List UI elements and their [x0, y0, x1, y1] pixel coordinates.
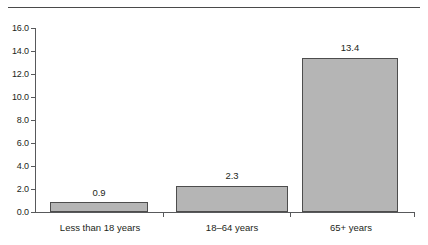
bar-value-label: 13.4 [302, 43, 398, 53]
x-axis-category-label-65-plus-years: 65+ years [292, 222, 410, 233]
bars-layer [0, 28, 428, 212]
bar-65-plus-years[interactable] [302, 58, 398, 212]
x-axis-category-label-less-than-18-years: Less than 18 years [40, 222, 160, 233]
x-axis-category-separator-tick [163, 213, 164, 217]
bar-less-than-18-years[interactable] [50, 202, 148, 212]
bar-group [50, 28, 148, 212]
x-axis-category-separator-tick [290, 213, 291, 217]
bar-value-label: 2.3 [176, 171, 288, 181]
x-axis-category-separator-tick [414, 213, 415, 217]
top-divider-rule [8, 7, 420, 8]
bar-18-64-years[interactable] [176, 186, 288, 212]
bar-group [176, 28, 288, 212]
bar-value-label: 0.9 [50, 188, 148, 198]
x-axis-line [35, 212, 415, 213]
bar-chart-figure: 16.0 14.0 12.0 10.0 8.0 6.0 4.0 2.0 0.0 … [0, 0, 428, 245]
bar-group [302, 28, 398, 212]
x-axis-category-label-18-64-years: 18–64 years [172, 222, 292, 233]
